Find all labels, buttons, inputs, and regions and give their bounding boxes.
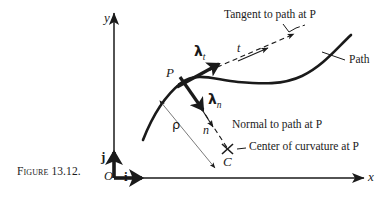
figure-13-12: Figure 13.12. y x O j i P C λt λn t n ρ …	[0, 0, 389, 201]
origin-label: O	[104, 170, 113, 183]
figure-caption: Figure 13.12.	[17, 166, 81, 178]
tangent-leader-dash	[296, 25, 305, 28]
lambda-n-label: λn	[208, 92, 222, 107]
unit-vector-i-label: i	[124, 170, 128, 183]
lambda-t-label: λt	[194, 44, 206, 59]
tangent-annotation: Tangent to path at P	[224, 9, 316, 21]
point-p-label: P	[166, 66, 174, 79]
x-axis-label: x	[368, 170, 374, 183]
lambda-n-vector	[180, 77, 203, 110]
normal-annotation: Normal to path at P	[232, 119, 322, 131]
lambda-t-subscript: t	[203, 52, 206, 62]
path-annotation: Path	[349, 54, 369, 66]
tangent-leader-line	[283, 24, 296, 32]
center-of-curvature-annotation: Center of curvature at P	[249, 141, 359, 153]
lambda-n-subscript: n	[217, 100, 222, 110]
tangent-direction-arrow	[238, 48, 268, 61]
radius-of-curvature-label: ρ	[172, 118, 180, 131]
lambda-n-symbol: λ	[208, 91, 217, 107]
normal-axis-label: n	[203, 124, 209, 136]
lambda-t-symbol: λ	[194, 43, 203, 59]
tangent-axis-label: t	[237, 42, 240, 54]
point-c-label: C	[223, 155, 232, 168]
center-leader-line	[237, 148, 246, 149]
y-axis-label: y	[104, 11, 110, 24]
center-of-curvature-marker	[222, 144, 233, 154]
unit-vector-j-label: j	[101, 150, 105, 163]
